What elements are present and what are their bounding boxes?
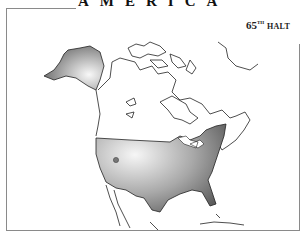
pacific-coast [96, 90, 100, 136]
halt-badge: 65TH HALT [246, 19, 290, 31]
canada-outline [98, 58, 250, 150]
arctic-islands [128, 42, 196, 74]
page-title: AMERICA [78, 0, 228, 10]
frame-left-border [6, 8, 7, 230]
inlet-1 [126, 98, 136, 106]
frame-bottom-border [6, 230, 300, 231]
frame-right-border [299, 44, 300, 230]
alaska-shape [44, 46, 104, 90]
caribbean [200, 214, 244, 225]
halt-label: HALT [267, 22, 290, 31]
halt-number: 65 [246, 19, 257, 31]
frame-top-border [6, 8, 76, 9]
hudson-bay [160, 96, 198, 124]
inlet-2 [126, 112, 134, 118]
greenland-edge [218, 42, 258, 70]
location-marker-icon [113, 157, 118, 162]
north-america-map [40, 40, 260, 230]
halt-suffix: TH [257, 20, 264, 25]
contiguous-us-shape [96, 124, 226, 212]
